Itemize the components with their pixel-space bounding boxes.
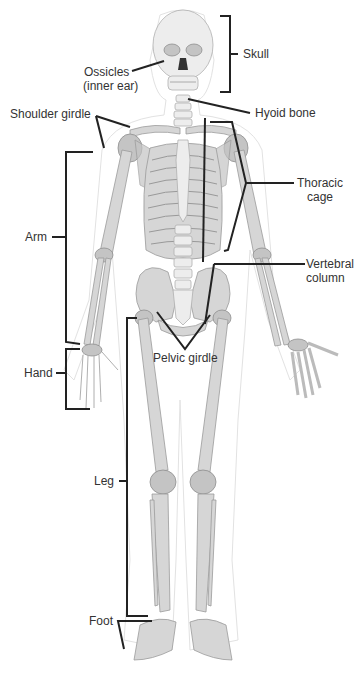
label-thoracic-cage-sub: cage (307, 191, 333, 204)
label-thoracic-cage: Thoracic (297, 177, 343, 190)
left-arm (80, 150, 132, 408)
label-hyoid-bone: Hyoid bone (255, 107, 316, 120)
skeleton-diagram: Skull Ossicles (inner ear) Hyoid bone Sh… (0, 0, 364, 675)
label-skull: Skull (243, 48, 269, 61)
label-shoulder-girdle: Shoulder girdle (10, 108, 91, 121)
skull-bone (153, 10, 213, 90)
label-vertebral-column: Vertebral (306, 258, 354, 271)
skeleton-illustration (0, 0, 364, 675)
label-leg: Leg (94, 475, 114, 488)
label-hand: Hand (24, 367, 53, 380)
label-vertebral-column-sub: column (306, 272, 345, 285)
label-ossicles-sub: (inner ear) (83, 80, 138, 93)
label-arm: Arm (25, 231, 47, 244)
label-ossicles: Ossicles (84, 66, 129, 79)
label-pelvic-girdle: Pelvic girdle (153, 352, 218, 365)
label-foot: Foot (89, 615, 113, 628)
